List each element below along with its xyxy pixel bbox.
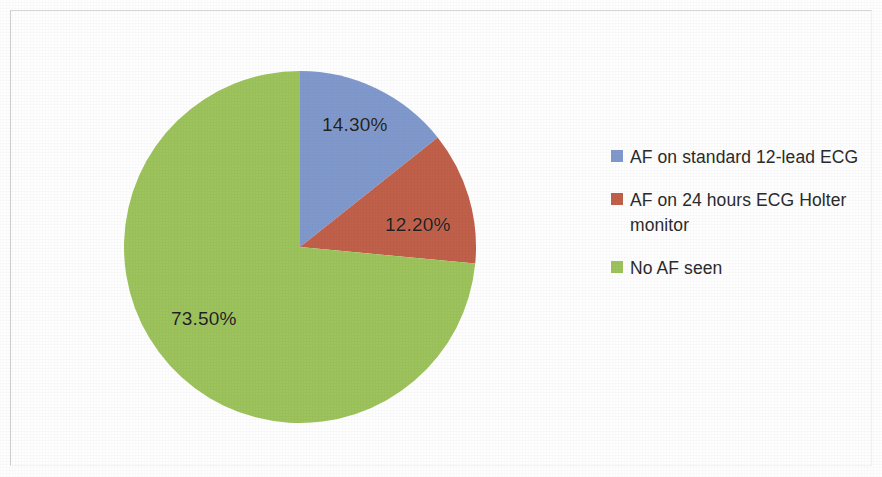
pie-chart-plot-area xyxy=(123,70,477,424)
pie-slice-label-no-af-seen: 73.50% xyxy=(171,308,237,330)
legend-color-swatch-icon xyxy=(611,193,623,205)
pie-slice-label-af-standard-ecg: 14.30% xyxy=(322,114,388,136)
legend-item-label: AF on 24 hours ECG Holter monitor xyxy=(630,188,863,238)
pie-slice-label-af-holter-monitor: 12.20% xyxy=(385,214,451,236)
legend-item-af-standard-ecg[interactable]: AF on standard 12-lead ECG xyxy=(611,145,863,170)
legend-color-swatch-icon xyxy=(611,261,623,273)
legend-item-no-af-seen[interactable]: No AF seen xyxy=(611,256,863,281)
legend-item-label: No AF seen xyxy=(630,256,722,281)
legend-item-label: AF on standard 12-lead ECG xyxy=(630,145,858,170)
chart-legend: AF on standard 12-lead ECG AF on 24 hour… xyxy=(611,145,863,299)
legend-item-af-holter-monitor[interactable]: AF on 24 hours ECG Holter monitor xyxy=(611,188,863,238)
pie-chart-figure: 14.30% 12.20% 73.50% AF on standard 12-l… xyxy=(0,0,882,477)
legend-color-swatch-icon xyxy=(611,150,623,162)
pie-chart-svg xyxy=(123,70,477,424)
